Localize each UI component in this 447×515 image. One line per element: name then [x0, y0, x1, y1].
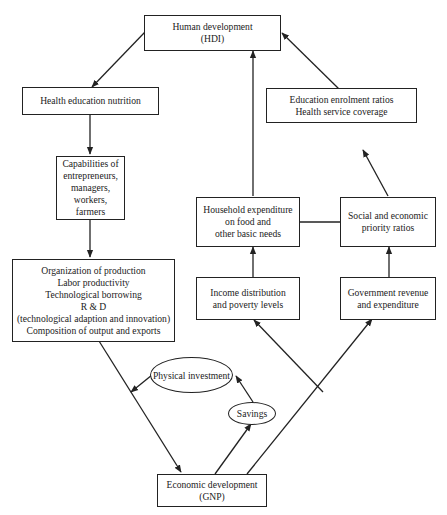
- node-income-line: Income distribution: [210, 287, 285, 299]
- node-education-enrolment-ratios: Education enrolment ratios Health servic…: [266, 88, 417, 123]
- node-social-line: priority ratios: [362, 222, 415, 234]
- node-organization-line: Labor productivity: [57, 277, 129, 289]
- connector-lines: [0, 0, 447, 515]
- node-education-line: Education enrolment ratios: [290, 94, 394, 106]
- node-social-economic-priority-ratios: Social and economic priority ratios: [340, 197, 436, 247]
- node-social-line: Social and economic: [348, 210, 428, 222]
- node-household-expenditure: Household expenditure on food and other …: [196, 197, 300, 247]
- node-health-line: Health education nutrition: [40, 95, 141, 107]
- node-organization-line: R & D: [81, 301, 107, 313]
- node-gnp-line: Economic development: [167, 479, 258, 491]
- node-hdi-line: (HDI): [201, 33, 224, 45]
- node-government-revenue: Government revenue and expenditure: [340, 277, 436, 320]
- node-health-education-nutrition: Health education nutrition: [22, 87, 159, 115]
- node-hdi: Human development (HDI): [144, 15, 281, 51]
- edge-hdi-to-health: [92, 32, 145, 87]
- node-government-line: and expenditure: [357, 299, 419, 311]
- node-physical-investment-line: Physical investment: [153, 370, 230, 381]
- node-organization-of-production: Organization of production Labor product…: [12, 259, 175, 342]
- edge-gnp-to-savings: [215, 424, 251, 474]
- node-organization-line: Technological borrowing: [45, 289, 142, 301]
- node-government-line: Government revenue: [348, 287, 429, 299]
- edge-savings-to-investment: [236, 376, 253, 402]
- node-capabilities-line: workers,: [74, 194, 107, 206]
- node-household-line: on food and: [225, 216, 271, 228]
- edge-education-to-hdi: [282, 33, 339, 89]
- node-organization-line: (technological adaption and innovation): [17, 313, 170, 325]
- node-capabilities-line: managers,: [71, 182, 110, 194]
- node-capabilities-line: farmers: [76, 206, 105, 218]
- node-organization-line: Composition of output and exports: [27, 325, 161, 337]
- node-economic-development-gnp: Economic development (GNP): [157, 474, 267, 507]
- node-capabilities: Capabilities of entrepreneurs, managers,…: [56, 156, 125, 220]
- edge-junction-to-income: [254, 320, 323, 392]
- node-household-line: Household expenditure: [203, 204, 292, 216]
- node-education-line: Health service coverage: [295, 106, 387, 118]
- edge-gnp-to-government: [247, 319, 372, 474]
- node-organization-line: Organization of production: [41, 265, 145, 277]
- node-income-line: and poverty levels: [213, 299, 283, 311]
- node-gnp-line: (GNP): [199, 491, 225, 503]
- edge-social-to-education: [363, 150, 388, 196]
- node-capabilities-line: entrepreneurs,: [63, 170, 118, 182]
- node-physical-investment: Physical investment: [150, 357, 233, 393]
- node-income-distribution: Income distribution and poverty levels: [196, 277, 300, 320]
- node-savings: Savings: [228, 402, 276, 425]
- node-household-line: other basic needs: [215, 228, 281, 240]
- node-capabilities-line: Capabilities of: [62, 158, 118, 170]
- edge-investment-to-link: [131, 375, 152, 392]
- node-hdi-line: Human development: [172, 21, 252, 33]
- node-savings-line: Savings: [237, 408, 267, 419]
